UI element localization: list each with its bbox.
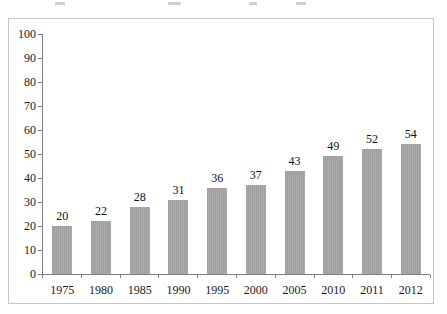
bar	[207, 188, 227, 274]
x-tick	[391, 275, 392, 278]
y-tick	[38, 106, 42, 107]
x-tick	[197, 275, 198, 278]
y-tick-label: 90	[9, 50, 36, 66]
bar	[362, 149, 382, 274]
cropped-text-remnant	[249, 2, 257, 5]
x-tick-label: 1985	[120, 282, 159, 298]
x-tick	[81, 275, 82, 278]
x-tick	[42, 275, 43, 278]
bar	[401, 144, 421, 274]
bar-slot: 37	[237, 34, 276, 274]
bar-value-label: 49	[327, 139, 339, 153]
bar-value-label: 20	[56, 209, 68, 223]
y-tick	[38, 202, 42, 203]
x-tick-label: 1990	[159, 282, 198, 298]
bar-slot: 54	[391, 34, 430, 274]
bar-value-label: 22	[95, 204, 107, 218]
x-tick-label: 2005	[275, 282, 314, 298]
x-tick-label: 1980	[82, 282, 121, 298]
bar-slot: 43	[275, 34, 314, 274]
y-tick-label: 10	[9, 242, 36, 258]
y-tick	[38, 178, 42, 179]
bar	[323, 156, 343, 274]
cropped-text-remnant	[168, 2, 181, 5]
x-tick	[158, 275, 159, 278]
bar-value-label: 52	[366, 132, 378, 146]
bar-value-label: 37	[250, 168, 262, 182]
x-tick	[236, 275, 237, 278]
x-tick	[120, 275, 121, 278]
bar-slot: 49	[314, 34, 353, 274]
bar-slot: 31	[159, 34, 198, 274]
cropped-text-remnant	[296, 2, 306, 5]
bar-slot: 52	[353, 34, 392, 274]
y-tick-label: 40	[9, 170, 36, 186]
bar-value-label: 36	[211, 171, 223, 185]
bar	[285, 171, 305, 274]
y-tick	[38, 82, 42, 83]
x-tick-label: 2000	[237, 282, 276, 298]
x-tick	[430, 275, 431, 278]
bar-slot: 28	[120, 34, 159, 274]
x-tick	[275, 275, 276, 278]
bar	[91, 221, 111, 274]
bar-value-label: 54	[405, 127, 417, 141]
bar-slot: 36	[198, 34, 237, 274]
y-tick-label: 20	[9, 218, 36, 234]
x-tick-label: 1975	[43, 282, 82, 298]
y-tick-label: 70	[9, 98, 36, 114]
y-tick	[38, 34, 42, 35]
y-tick-label: 50	[9, 146, 36, 162]
x-tick	[352, 275, 353, 278]
x-tick	[314, 275, 315, 278]
chart-frame: 0102030405060708090100 20222831363743495…	[8, 18, 434, 304]
bar-value-label: 43	[289, 154, 301, 168]
x-tick-label: 1995	[198, 282, 237, 298]
bar	[130, 207, 150, 274]
y-tick-label: 100	[9, 26, 36, 42]
y-tick	[38, 154, 42, 155]
y-tick-label: 30	[9, 194, 36, 210]
bar-value-label: 31	[172, 183, 184, 197]
y-tick	[38, 250, 42, 251]
y-tick-label: 80	[9, 74, 36, 90]
bar-slot: 20	[43, 34, 82, 274]
y-tick	[38, 226, 42, 227]
bar-slot: 22	[82, 34, 121, 274]
screenshot-root: 0102030405060708090100 20222831363743495…	[0, 0, 447, 314]
x-tick-label: 2010	[314, 282, 353, 298]
y-tick-label: 0	[9, 266, 36, 282]
x-tick-label: 2011	[353, 282, 392, 298]
bar	[168, 200, 188, 274]
bars-container: 20222831363743495254	[43, 34, 430, 274]
y-tick-label: 60	[9, 122, 36, 138]
y-tick	[38, 58, 42, 59]
bar	[52, 226, 72, 274]
bar	[246, 185, 266, 274]
x-tick-label: 2012	[391, 282, 430, 298]
bar-value-label: 28	[134, 190, 146, 204]
cropped-text-remnant	[55, 2, 65, 5]
x-axis-labels: 1975198019851990199520002005201020112012	[43, 282, 430, 298]
y-tick	[38, 130, 42, 131]
